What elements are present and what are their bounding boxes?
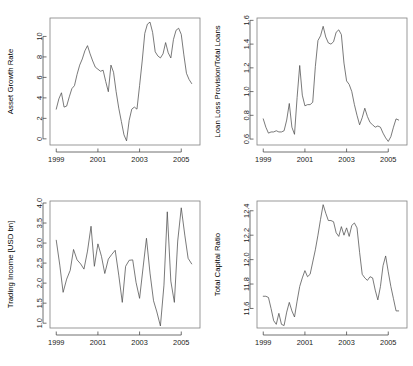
x-tick-label: 2005 xyxy=(173,155,189,164)
x-tick-label: 2003 xyxy=(131,338,147,347)
y-axis-title: Loan Loss Provision/Total Loans xyxy=(213,25,222,137)
x-tick-label: 1999 xyxy=(255,338,271,347)
y-tick-label: 3.5 xyxy=(36,218,45,228)
y-tick-label: 0 xyxy=(36,137,45,141)
data-series-line xyxy=(263,205,398,326)
panel-loan-loss-provision: 0.60.81.01.21.41.61999200120032005Loan L… xyxy=(207,0,413,183)
chart-asset-growth-rate: 02468101999200120032005Asset Growth Rate xyxy=(0,0,206,183)
y-tick-label: 1.6 xyxy=(243,15,252,25)
figure-panel-grid: 02468101999200120032005Asset Growth Rate… xyxy=(0,0,413,366)
chart-trading-income: 1.01.52.02.53.03.54.01999200120032005Tra… xyxy=(0,183,206,366)
x-tick-label: 2001 xyxy=(90,338,106,347)
y-axis-title: Total Capital Ratio xyxy=(213,232,222,296)
y-tick-label: 4 xyxy=(36,96,45,100)
panel-total-capital-ratio: 11.611.812.012.212.41999200120032005Tota… xyxy=(207,183,413,366)
y-tick-label: 3.0 xyxy=(36,238,45,248)
y-tick-label: 11.6 xyxy=(243,302,252,316)
y-tick-label: 1.0 xyxy=(243,86,252,96)
x-tick-label: 2003 xyxy=(338,338,354,347)
x-tick-label: 2005 xyxy=(380,338,396,347)
y-tick-label: 0.6 xyxy=(243,134,252,144)
y-tick-label: 1.0 xyxy=(36,318,45,328)
x-tick-label: 2001 xyxy=(297,155,313,164)
panel-asset-growth-rate: 02468101999200120032005Asset Growth Rate xyxy=(0,0,206,183)
chart-total-capital-ratio: 11.611.812.012.212.41999200120032005Tota… xyxy=(207,183,413,366)
x-tick-label: 2003 xyxy=(131,155,147,164)
x-tick-label: 2005 xyxy=(173,338,189,347)
y-tick-label: 2.0 xyxy=(36,278,45,288)
x-tick-label: 2001 xyxy=(297,338,313,347)
x-tick-label: 2001 xyxy=(90,155,106,164)
x-tick-label: 2005 xyxy=(380,155,396,164)
chart-loan-loss-provision: 0.60.81.01.21.41.61999200120032005Loan L… xyxy=(207,0,413,183)
y-tick-label: 10 xyxy=(36,32,45,40)
plot-box xyxy=(50,18,200,145)
plot-box xyxy=(50,201,200,328)
x-tick-label: 2003 xyxy=(338,155,354,164)
plot-box xyxy=(257,18,407,145)
y-axis-title: Asset Growth Rate xyxy=(6,49,15,114)
x-tick-label: 1999 xyxy=(255,155,271,164)
y-axis-title: Trading Income [USD bn] xyxy=(6,221,15,309)
y-tick-label: 0.8 xyxy=(243,110,252,120)
y-tick-label: 1.2 xyxy=(243,63,252,73)
y-tick-label: 2 xyxy=(36,116,45,120)
data-series-line xyxy=(56,22,191,141)
x-tick-label: 1999 xyxy=(48,338,64,347)
y-tick-label: 12.2 xyxy=(243,228,252,242)
panel-trading-income: 1.01.52.02.53.03.54.01999200120032005Tra… xyxy=(0,183,206,366)
plot-box xyxy=(257,201,407,328)
y-tick-label: 8 xyxy=(36,55,45,59)
y-tick-label: 6 xyxy=(36,75,45,79)
data-series-line xyxy=(263,26,398,141)
y-tick-label: 11.8 xyxy=(243,277,252,291)
y-tick-label: 4.0 xyxy=(36,198,45,208)
x-tick-label: 1999 xyxy=(48,155,64,164)
y-tick-label: 12.4 xyxy=(243,204,252,218)
y-tick-label: 12.0 xyxy=(243,252,252,266)
y-tick-label: 1.4 xyxy=(243,39,252,49)
y-tick-label: 2.5 xyxy=(36,258,45,268)
y-tick-label: 1.5 xyxy=(36,298,45,308)
data-series-line xyxy=(56,208,191,326)
